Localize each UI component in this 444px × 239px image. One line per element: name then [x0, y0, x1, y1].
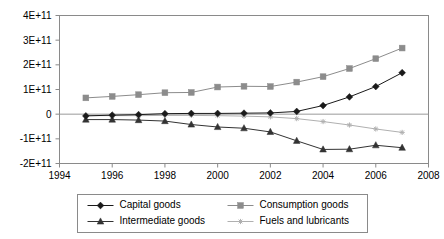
series-capital-goods — [82, 69, 405, 119]
data-point-marker — [267, 84, 273, 90]
legend-entry-label: Consumption goods — [260, 199, 349, 210]
data-point-marker — [372, 83, 379, 90]
data-point-marker — [400, 130, 405, 135]
series-line — [86, 48, 402, 98]
data-point-marker — [188, 90, 194, 96]
data-point-marker — [267, 110, 274, 117]
data-point-marker — [162, 90, 168, 96]
data-point-marker — [238, 219, 243, 224]
data-point-marker — [162, 110, 169, 117]
data-point-marker — [97, 218, 104, 224]
data-point-marker — [135, 111, 142, 118]
legend-entry-label: Intermediate goods — [120, 215, 206, 226]
data-point-marker — [372, 142, 379, 148]
data-point-marker — [294, 116, 299, 121]
chart-svg: 4E+113E+112E+111E+110-1E+11-2E+111994199… — [0, 0, 444, 239]
series-line — [86, 73, 402, 116]
x-tick-label: 1998 — [154, 170, 177, 181]
series-consumption-goods — [83, 45, 405, 101]
data-point-marker — [215, 84, 221, 90]
data-point-marker — [399, 45, 405, 51]
x-tick-label: 2004 — [312, 170, 335, 181]
legend-entry-intermediate-goods[interactable]: Intermediate goods — [88, 215, 206, 226]
x-tick-label: 2008 — [417, 170, 440, 181]
data-point-marker — [97, 202, 104, 209]
data-point-marker — [294, 79, 300, 85]
chart-figure: 4E+113E+112E+111E+110-1E+11-2E+111994199… — [0, 0, 444, 239]
data-point-marker — [109, 112, 116, 119]
legend-entry-label: Capital goods — [120, 199, 181, 210]
data-point-marker — [241, 83, 247, 89]
data-point-marker — [136, 92, 142, 98]
y-tick-label: 2E+11 — [23, 59, 52, 70]
data-point-marker — [347, 122, 352, 127]
data-point-marker — [241, 110, 248, 117]
data-point-marker — [347, 66, 353, 72]
data-point-marker — [320, 74, 326, 80]
series-intermediate-goods — [83, 116, 406, 152]
data-point-marker — [320, 102, 327, 109]
data-point-marker — [238, 203, 244, 209]
data-point-marker — [346, 94, 353, 101]
data-point-marker — [373, 126, 378, 131]
data-point-marker — [373, 56, 379, 62]
x-tick-label: 2006 — [365, 170, 388, 181]
y-tick-label: -1E+11 — [20, 133, 52, 144]
series-line — [86, 120, 402, 150]
data-point-marker — [83, 95, 89, 101]
x-tick-label: 2000 — [207, 170, 230, 181]
y-tick-label: 0 — [46, 109, 52, 120]
y-tick-label: 3E+11 — [23, 35, 52, 46]
legend-entry-capital-goods[interactable]: Capital goods — [88, 199, 181, 210]
y-tick-label: -2E+11 — [20, 158, 52, 169]
x-tick-label: 1996 — [101, 170, 124, 181]
legend-entry-fuels-and-lubricants[interactable]: Fuels and lubricants — [228, 215, 350, 226]
data-point-marker — [109, 94, 115, 100]
y-tick-label: 4E+11 — [23, 10, 52, 21]
x-tick-label: 1994 — [48, 170, 71, 181]
data-point-marker — [399, 69, 406, 76]
legend-entry-label: Fuels and lubricants — [260, 215, 350, 226]
legend-entry-consumption-goods[interactable]: Consumption goods — [228, 199, 349, 210]
plot-area-frame — [60, 16, 429, 164]
data-point-marker — [320, 119, 325, 124]
y-tick-label: 1E+11 — [23, 84, 52, 95]
data-point-marker — [82, 112, 89, 119]
x-tick-label: 2002 — [259, 170, 282, 181]
